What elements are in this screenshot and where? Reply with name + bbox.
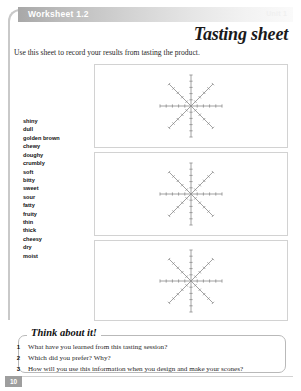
descriptor-word-list: shinydullgolden brownchewydoughycrumblys…	[23, 117, 85, 260]
tasting-chart-box-2[interactable]	[94, 152, 288, 236]
question-text: Which did you prefer? Why?	[28, 354, 111, 362]
descriptor-word: thick	[23, 226, 85, 234]
worksheet-label: Worksheet 1.2	[28, 9, 89, 19]
question-row: 1What have you learned from this tasting…	[0, 343, 301, 351]
descriptor-word: dry	[23, 243, 85, 251]
descriptor-word: moist	[23, 252, 85, 260]
descriptor-word: thin	[23, 218, 85, 226]
descriptor-word: fatty	[23, 201, 85, 209]
descriptor-word: cheesy	[23, 235, 85, 243]
descriptor-word: golden brown	[23, 134, 85, 142]
descriptor-word: chewy	[23, 142, 85, 150]
descriptor-word: dull	[23, 125, 85, 133]
worksheet-header-bar: Worksheet 1.2 Unit 1	[18, 7, 293, 22]
question-row: 3How will you use this information when …	[0, 365, 301, 373]
question-text: What have you learned from this tasting …	[28, 343, 167, 351]
star-diagram	[154, 69, 228, 143]
page-title: Tasting sheet	[194, 24, 288, 45]
descriptor-word: sour	[23, 193, 85, 201]
tasting-chart-box-1[interactable]	[94, 64, 288, 148]
unit-label: Unit 1	[266, 10, 287, 17]
question-text: How will you use this information when y…	[28, 365, 243, 373]
star-diagram	[154, 157, 228, 231]
question-number: 2	[0, 355, 20, 361]
descriptor-word: doughy	[23, 151, 85, 159]
descriptor-word: sweet	[23, 184, 85, 192]
descriptor-word: bitty	[23, 176, 85, 184]
question-number: 1	[0, 344, 20, 350]
descriptor-word: crumbly	[23, 159, 85, 167]
star-diagram	[154, 244, 228, 318]
descriptor-word: soft	[23, 168, 85, 176]
question-number: 3	[0, 366, 20, 372]
think-about-it-heading: Think about it!	[27, 327, 101, 338]
worksheet-page: Worksheet 1.2 Unit 1 Tasting sheet Use t…	[0, 0, 301, 391]
footer-rule	[8, 376, 293, 377]
tasting-chart-box-3[interactable]	[94, 240, 288, 321]
descriptor-word: fruity	[23, 210, 85, 218]
instruction-text: Use this sheet to record your results fr…	[14, 48, 200, 57]
page-number: 10	[5, 376, 22, 387]
question-row: 2Which did you prefer? Why?	[0, 354, 301, 362]
descriptor-word: shiny	[23, 117, 85, 125]
